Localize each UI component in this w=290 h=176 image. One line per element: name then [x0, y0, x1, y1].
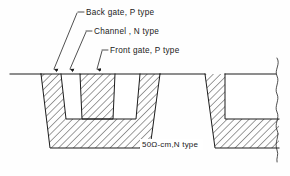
- leader-line-front-gate: [97, 51, 102, 69]
- label-back-gate: Back gate, P type: [86, 8, 154, 17]
- label-front-gate: Front gate, P type: [110, 46, 180, 55]
- right-trench-cavity: [225, 74, 279, 119]
- label-channel: Channel , N type: [94, 27, 159, 36]
- label-substrate-resistivity: 50Ω-cm,N type: [142, 140, 199, 149]
- leader-line-channel: [70, 32, 86, 69]
- figure-canvas: Back gate, P type Channel , N type Front…: [0, 0, 290, 176]
- front-gate-pillar-hatch: [80, 74, 115, 119]
- left-trench-structure: [41, 74, 160, 148]
- right-trench-structure: [205, 74, 279, 148]
- annotation-leaders: [54, 12, 108, 69]
- cross-section-diagram: Back gate, P type Channel , N type Front…: [0, 0, 290, 176]
